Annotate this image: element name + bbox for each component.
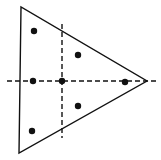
point-p6 [75, 103, 81, 109]
point-p1 [31, 28, 37, 34]
triangle-outline [19, 7, 147, 153]
point-p2 [75, 52, 81, 58]
point-p3 [30, 78, 36, 84]
point-p4 [59, 78, 65, 84]
triangle-diagram [0, 0, 161, 160]
point-p5 [122, 79, 128, 85]
diagram-canvas [0, 0, 161, 160]
point-p7 [29, 128, 35, 134]
dashed-axes [7, 24, 158, 138]
